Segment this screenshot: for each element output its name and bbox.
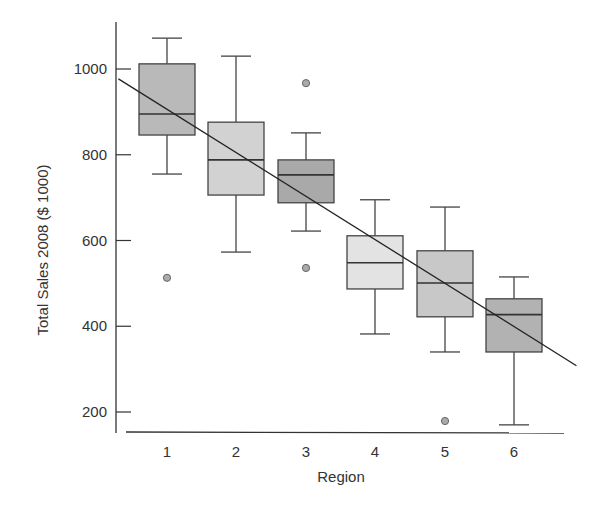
- y-axis-title: Total Sales 2008 ($ 1000): [34, 165, 51, 336]
- x-tick-label: 2: [232, 443, 240, 460]
- box-region-1: [139, 38, 195, 281]
- iqr-box: [139, 64, 195, 135]
- box-region-5: [417, 207, 473, 425]
- boxes: [139, 38, 542, 425]
- x-axis-title: Region: [317, 468, 365, 485]
- box-region-6: [486, 277, 542, 425]
- y-tick-label: 600: [82, 232, 107, 249]
- box-plot-chart: 2004006008001000 123456 Total Sales 2008…: [0, 0, 589, 517]
- x-tick-label: 5: [441, 443, 449, 460]
- x-tick-label: 3: [302, 443, 310, 460]
- outlier-point: [441, 417, 448, 424]
- outlier-point: [163, 274, 170, 281]
- y-tick-label: 800: [82, 146, 107, 163]
- y-tick-label: 1000: [74, 60, 107, 77]
- x-tick-label: 1: [163, 443, 171, 460]
- box-region-4: [347, 200, 403, 334]
- iqr-box: [208, 122, 264, 195]
- iqr-box: [486, 299, 542, 352]
- x-axis-line: [126, 432, 564, 433]
- box-region-2: [208, 56, 264, 252]
- x-axis: 123456: [126, 432, 564, 460]
- x-tick-label: 6: [510, 443, 518, 460]
- regression-line: [118, 79, 576, 366]
- box-region-3: [278, 80, 334, 272]
- x-tick-label: 4: [371, 443, 379, 460]
- y-axis: 2004006008001000: [74, 22, 131, 433]
- y-tick-label: 400: [82, 317, 107, 334]
- outlier-point: [302, 264, 309, 271]
- y-tick-label: 200: [82, 403, 107, 420]
- outlier-point: [302, 80, 309, 87]
